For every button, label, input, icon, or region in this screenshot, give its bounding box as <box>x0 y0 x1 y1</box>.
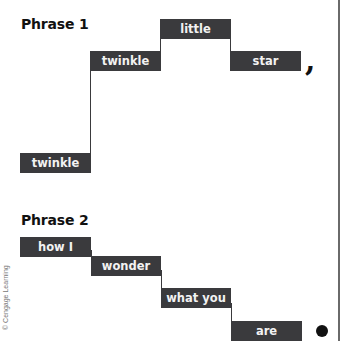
phrase2-note-1: how I <box>20 237 91 257</box>
phrase2-note-4: are <box>231 321 302 341</box>
phrase2-connector-3 <box>231 303 232 322</box>
phrase2-note-3: what you <box>161 288 231 308</box>
phrase2-connector-2 <box>161 270 162 289</box>
period-mark <box>316 325 328 337</box>
phrase1-title: Phrase 1 <box>21 16 88 32</box>
phrase1-note-3: little <box>160 19 231 39</box>
phrase2-title: Phrase 2 <box>21 212 88 228</box>
phrase1-connector-3 <box>230 38 231 52</box>
phrase1-note-2: twinkle <box>90 51 161 71</box>
comma-mark: , <box>305 46 315 76</box>
phrase1-connector-1 <box>90 60 91 154</box>
phrase2-note-2: wonder <box>91 256 161 276</box>
phrase1-note-4: star <box>230 51 301 71</box>
copyright-credit: © Cengage Learning <box>2 265 9 330</box>
phrase1-note-1: twinkle <box>20 153 91 173</box>
right-border-line <box>338 0 340 341</box>
